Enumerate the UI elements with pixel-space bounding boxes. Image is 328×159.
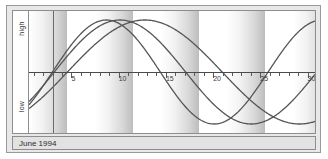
x-tick-minor [109,73,110,76]
x-tick-minor [138,73,139,76]
x-tick-minor [185,73,186,76]
x-tick-label: 5 [71,75,75,82]
x-tick-minor [298,73,299,76]
x-tick-label: 25 [260,75,268,82]
x-tick-minor [232,73,233,76]
plot-frame: high low 51015202530 [12,10,316,134]
y-axis-low-label: low [18,88,25,126]
y-axis-label-strip: high low [13,11,29,133]
x-tick-minor [223,73,224,76]
x-tick-label: 20 [213,75,221,82]
y-axis-high-label: high [18,10,25,48]
x-tick-label: 15 [166,75,174,82]
month-year-caption: June 1994 [19,139,56,148]
x-tick-label: 30 [308,75,315,82]
x-tick-minor [147,73,148,76]
biorhythm-chart-window: high low 51015202530 June 1994 [6,5,321,153]
x-tick-minor [53,73,54,76]
x-tick-minor [279,73,280,76]
x-tick-minor [241,73,242,76]
x-tick-minor [81,73,82,76]
x-tick-minor [128,73,129,76]
x-tick-minor [100,73,101,76]
x-tick-minor [251,73,252,76]
x-tick-minor [62,73,63,76]
x-tick-minor [156,73,157,76]
caption-bar: June 1994 [12,136,316,150]
x-tick-minor [43,73,44,76]
x-tick-minor [34,73,35,76]
plot-area[interactable]: 51015202530 [29,11,315,133]
x-tick-minor [270,73,271,76]
x-tick-minor [175,73,176,76]
x-tick-minor [289,73,290,76]
x-tick-minor [204,73,205,76]
x-tick-minor [90,73,91,76]
x-tick-label: 10 [119,75,127,82]
x-tick-minor [194,73,195,76]
